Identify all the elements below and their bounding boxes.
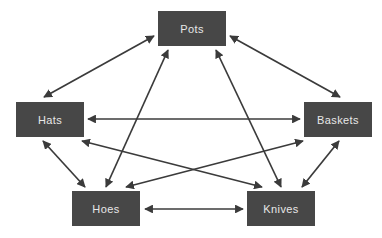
node-pots[interactable]: Pots	[158, 11, 226, 46]
node-label-hats: Hats	[38, 114, 62, 126]
node-label-hoes: Hoes	[92, 203, 119, 215]
edge-hats-hoes	[43, 141, 85, 187]
edge-baskets-knives	[302, 141, 339, 187]
edge-hats-pots	[44, 36, 154, 97]
node-knives[interactable]: Knives	[247, 191, 315, 226]
edge-pots-baskets	[230, 36, 340, 97]
node-label-baskets: Baskets	[317, 114, 359, 126]
edge-baskets-hoes	[126, 141, 303, 187]
node-hoes[interactable]: Hoes	[72, 191, 140, 226]
diagram-canvas: PotsHatsBasketsHoesKnives	[0, 0, 382, 238]
node-label-knives: Knives	[263, 203, 298, 215]
node-baskets[interactable]: Baskets	[304, 102, 372, 137]
node-hats[interactable]: Hats	[16, 102, 84, 137]
node-label-pots: Pots	[180, 23, 204, 35]
